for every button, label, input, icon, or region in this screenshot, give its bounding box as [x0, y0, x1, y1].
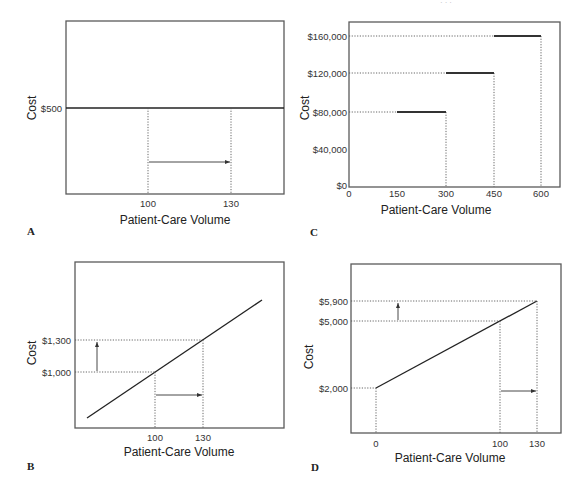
- panel-b-y-axis-label: Cost: [25, 340, 39, 365]
- panel-d-x-axis-label: Patient-Care Volume: [395, 451, 506, 465]
- panel-c-xtick-150: 150: [389, 188, 405, 199]
- panel-a-fixed-cost-chart: $500 100 130 Patient-Care Volume Cost A: [25, 21, 284, 237]
- panel-a-y-axis-label: Cost: [25, 95, 39, 120]
- panel-d-mixed-cost-chart: $5,900 $5,000 $2,000 0 100 130 Patient-C…: [302, 264, 561, 473]
- panel-d-ytick-5900: $5,900: [319, 296, 348, 307]
- panel-d-ytick-5000: $5,000: [319, 316, 348, 327]
- panel-d-plot-frame: [351, 264, 561, 433]
- panel-c-y-axis-label: Cost: [298, 95, 312, 120]
- panel-c-label: C: [310, 226, 318, 238]
- panel-b-ytick-1300: $1,300: [42, 335, 71, 346]
- panel-c-step-cost-chart: $160,000 $120,000 $80,000 $40,000 $0 0 1…: [298, 22, 560, 238]
- panel-c-xtick-0: 0: [346, 188, 351, 199]
- panel-d-xtick-130: 130: [529, 438, 545, 449]
- panel-a-label: A: [27, 225, 35, 237]
- panel-b-plot-frame: [75, 262, 284, 428]
- panel-a-xtick-130: 130: [223, 198, 239, 209]
- panel-b-xtick-100: 100: [147, 432, 163, 443]
- panel-b-variable-cost-chart: $1,300 $1,000 100 130 Patient-Care Volum…: [25, 262, 284, 472]
- panel-c-ytick-120k: $120,000: [307, 68, 347, 79]
- page-header-fragment: · · ·: [440, 0, 452, 7]
- panel-c-xtick-450: 450: [486, 188, 502, 199]
- panel-a-xtick-100: 100: [140, 198, 156, 209]
- panel-c-ytick-40k: $40,000: [313, 144, 347, 155]
- panel-b-ytick-1000: $1,000: [42, 367, 71, 378]
- panel-d-xtick-100: 100: [492, 438, 508, 449]
- cost-behavior-figure: · · · $500 100 130 Patient-Care Volume C…: [0, 0, 587, 494]
- panel-c-xtick-300: 300: [438, 188, 454, 199]
- panel-a-x-axis-label: Patient-Care Volume: [120, 213, 231, 227]
- panel-c-plot-frame: [349, 22, 560, 187]
- panel-d-cost-line: [376, 301, 537, 388]
- panel-c-ytick-160k: $160,000: [307, 31, 347, 42]
- panel-b-cost-line: [87, 300, 262, 418]
- panel-b-label: B: [27, 460, 35, 472]
- panel-c-ytick-80k: $80,000: [313, 107, 347, 118]
- panel-c-x-axis-label: Patient-Care Volume: [381, 203, 492, 217]
- panel-d-label: D: [311, 461, 319, 473]
- panel-d-ytick-2000: $2,000: [319, 383, 348, 394]
- panel-d-xtick-0: 0: [373, 438, 378, 449]
- panel-b-x-axis-label: Patient-Care Volume: [124, 445, 235, 459]
- panel-a-ytick-500: $500: [41, 103, 62, 114]
- panel-d-y-axis-label: Cost: [302, 344, 316, 369]
- panel-c-xtick-600: 600: [533, 188, 549, 199]
- panel-b-xtick-130: 130: [195, 432, 211, 443]
